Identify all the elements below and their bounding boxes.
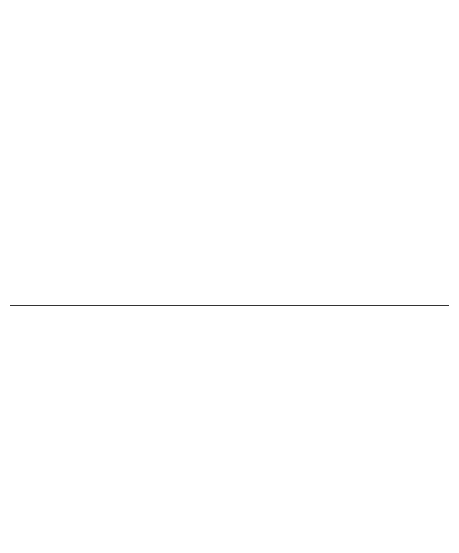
- species-header-divider: [10, 305, 449, 306]
- soil-element-line-chart: [0, 0, 459, 288]
- line-chart-svg: [0, 0, 459, 288]
- figure-container: [0, 0, 459, 553]
- species-range-chart: [0, 288, 459, 553]
